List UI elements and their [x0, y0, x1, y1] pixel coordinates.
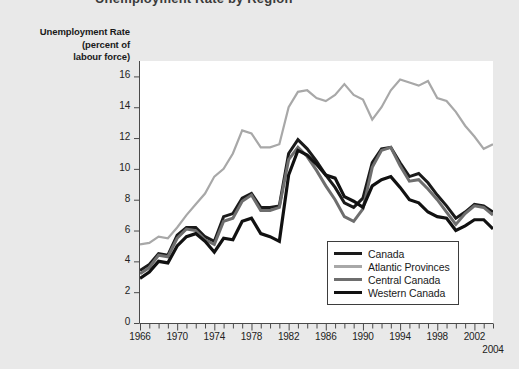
legend-item[interactable]: Canada: [334, 247, 450, 260]
x-axis-tick-label: 2002: [454, 331, 494, 342]
x-axis-tick-label: 1982: [269, 331, 309, 342]
y-axis-tick-label: 2: [100, 285, 130, 296]
legend-line-swatch-icon: [334, 274, 362, 286]
x-axis-tick-label: 1990: [343, 331, 383, 342]
chart-figure: Unemployment Rate by Region Unemployment…: [0, 0, 519, 369]
y-axis-title-line2: (percent of: [18, 39, 130, 52]
y-axis-tick-label: 4: [100, 254, 130, 265]
y-axis-tick-label: 14: [100, 100, 130, 111]
legend-item-label: Canada: [368, 248, 404, 260]
y-axis-tick-label: 12: [100, 131, 130, 142]
legend-line-swatch-icon: [334, 261, 362, 273]
chart-legend[interactable]: CanadaAtlantic ProvincesCentral CanadaWe…: [327, 241, 459, 305]
chart-title: Unemployment Rate by Region: [95, 0, 293, 6]
y-axis-tick-label: 16: [100, 69, 130, 80]
x-axis-tick-label: 1998: [417, 331, 457, 342]
legend-item-label: Central Canada: [368, 274, 440, 286]
legend-item-label: Atlantic Provinces: [368, 261, 450, 273]
x-axis-tick-label: 1978: [231, 331, 271, 342]
legend-item[interactable]: Western Canada: [334, 286, 450, 299]
y-axis-title-line1: Unemployment Rate: [18, 26, 130, 39]
y-axis-tick-label: 0: [100, 316, 130, 327]
y-axis-tick-label: 6: [100, 224, 130, 235]
x-axis-end-label: 2004: [473, 344, 513, 355]
y-axis-title-line3: labour force): [18, 51, 130, 64]
legend-line-swatch-icon: [334, 248, 362, 260]
y-axis-title: Unemployment Rate (percent of labour for…: [18, 26, 130, 64]
x-axis-tick-label: 1986: [306, 331, 346, 342]
y-axis-tick-label: 10: [100, 162, 130, 173]
x-axis-tick-label: 1966: [120, 331, 160, 342]
legend-item[interactable]: Atlantic Provinces: [334, 260, 450, 273]
legend-item-label: Western Canada: [368, 287, 445, 299]
legend-item[interactable]: Central Canada: [334, 273, 450, 286]
x-axis-tick-label: 1970: [157, 331, 197, 342]
x-axis-tick-label: 1994: [380, 331, 420, 342]
chart-title-strip: Unemployment Rate by Region: [0, 0, 519, 9]
y-axis-tick-label: 8: [100, 193, 130, 204]
x-axis-tick-label: 1974: [194, 331, 234, 342]
legend-line-swatch-icon: [334, 287, 362, 299]
